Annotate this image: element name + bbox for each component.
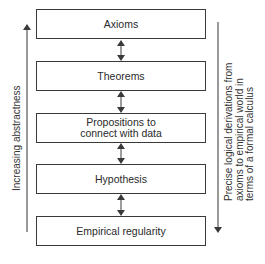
box-empirical-regularity-label: Empirical regularity (76, 226, 165, 237)
box-empirical-regularity: Empirical regularity (36, 216, 206, 246)
box-theorems-label: Theorems (97, 71, 144, 82)
box-propositions-line2: connect with data (80, 128, 162, 139)
box-axioms: Axioms (36, 9, 206, 39)
box-theorems: Theorems (36, 61, 206, 91)
right-axis-label: Precise logical derivations from axioms … (224, 63, 256, 201)
box-hypothesis-label: Hypothesis (95, 174, 147, 185)
left-axis-label: Increasing abstractness (11, 85, 22, 191)
right-axis-label-line1: Precise logical derivations from (224, 63, 235, 201)
box-propositions: Propositions to connect with data (36, 113, 206, 143)
box-hypothesis: Hypothesis (36, 164, 206, 194)
right-axis-label-line3: terms of a formal calculus (245, 63, 256, 201)
box-axioms-label: Axioms (104, 19, 138, 30)
